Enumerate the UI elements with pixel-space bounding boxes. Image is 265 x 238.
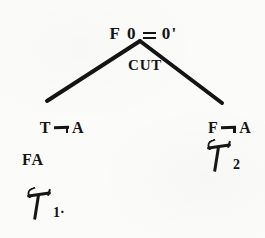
cut-rule-label: CUT — [128, 58, 162, 73]
negation-icon — [221, 122, 236, 137]
derivation-tau-2: 2 — [206, 140, 240, 174]
leaf-left-atom: A — [72, 119, 84, 136]
proof-tree-figure: F00' CUT TA FA FA 1· 2 — [0, 0, 265, 238]
tau-1-trailing-dot: · — [60, 205, 65, 222]
leaf-right-atom: A — [239, 119, 251, 136]
left-branch-side-label: FA — [22, 152, 44, 168]
negation-icon — [54, 122, 69, 137]
tau-2-subscript: 2 — [233, 157, 240, 174]
derivation-tau-1: 1· — [26, 188, 65, 222]
tau-1-subscript: 1 — [53, 205, 60, 222]
leaf-right-sign: F — [208, 119, 218, 136]
leaf-left-sequent: TA — [22, 104, 84, 153]
leaf-left-sign: T — [40, 119, 51, 136]
tau-icon — [26, 188, 52, 222]
tau-icon — [206, 140, 232, 174]
edge-left — [47, 41, 140, 101]
